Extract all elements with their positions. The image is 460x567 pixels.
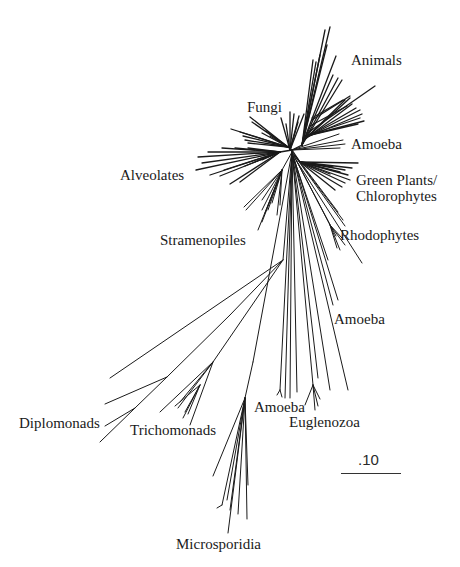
scale-bar-label: .10 [358,451,379,468]
label-diplomonads: Diplomonads [19,416,100,432]
label-euglenozoa: Euglenozoa [289,415,360,431]
scale-bar [341,473,401,474]
label-green-plants-line1: Green Plants/ [356,173,437,189]
label-rhodophytes: Rhodophytes [340,228,419,244]
clade-animals-branches [292,27,375,150]
label-amoeba-top: Amoeba [351,137,402,153]
label-trichomonads: Trichomonads [130,423,216,439]
label-green-plants-line2: Chlorophytes [356,189,437,205]
label-amoeba-mid: Amoeba [334,312,385,328]
label-green-plants: Green Plants/ Chlorophytes [356,173,437,205]
label-alveolates: Alveolates [120,168,184,184]
clade-amoeba-top-branches [292,134,345,150]
clade-fungi-branches [231,112,304,150]
label-stramenopiles: Stramenopiles [160,233,246,249]
long-lineage-branches [100,152,348,533]
label-animals: Animals [351,53,402,69]
label-microsporidia: Microsporidia [176,537,261,553]
label-fungi: Fungi [247,100,282,116]
phylogenetic-tree [0,0,460,567]
